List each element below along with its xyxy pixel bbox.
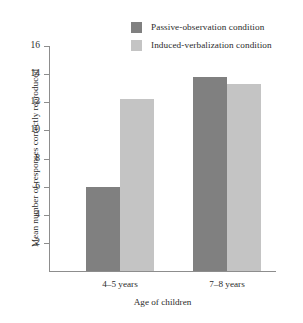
y-axis-tick-label: 4 xyxy=(35,208,40,221)
x-axis-line xyxy=(49,271,276,272)
y-axis-tick: 12 xyxy=(44,102,49,103)
bar xyxy=(227,84,261,271)
y-axis-tick-label: 8 xyxy=(35,152,40,165)
legend-item-passive-observation: Passive-observation condition xyxy=(131,18,301,36)
y-axis-tick: 6 xyxy=(44,187,49,188)
x-axis-tick-label: 7–8 years xyxy=(177,278,277,291)
legend-label-passive-observation: Passive-observation condition xyxy=(151,22,264,33)
y-axis-tick: 10 xyxy=(44,130,49,131)
x-axis-title: Age of children xyxy=(49,296,276,309)
y-axis-tick-label: 2 xyxy=(35,236,40,249)
bar xyxy=(86,187,120,271)
y-axis-tick: 8 xyxy=(44,159,49,160)
y-axis-tick: 4 xyxy=(44,215,49,216)
y-axis-tick-label: 12 xyxy=(31,95,41,108)
x-axis-tick-label: 4–5 years xyxy=(70,278,170,291)
y-axis-tick-label: 10 xyxy=(31,123,41,136)
plot-area: 246810121416 4–5 years7–8 years xyxy=(49,46,276,271)
y-axis-tick-label: 14 xyxy=(31,67,41,80)
y-axis-tick-label: 6 xyxy=(35,180,40,193)
bar xyxy=(120,99,154,271)
y-axis-tick: 2 xyxy=(44,243,49,244)
y-axis-tick: 16 xyxy=(44,46,49,47)
y-axis-line xyxy=(49,46,50,272)
bar xyxy=(193,77,227,271)
bar-chart-figure: Passive-observation condition Induced-ve… xyxy=(0,0,303,323)
legend-swatch-passive-observation xyxy=(131,22,142,33)
y-axis-tick-label: 16 xyxy=(31,39,41,52)
y-axis-tick: 14 xyxy=(44,74,49,75)
